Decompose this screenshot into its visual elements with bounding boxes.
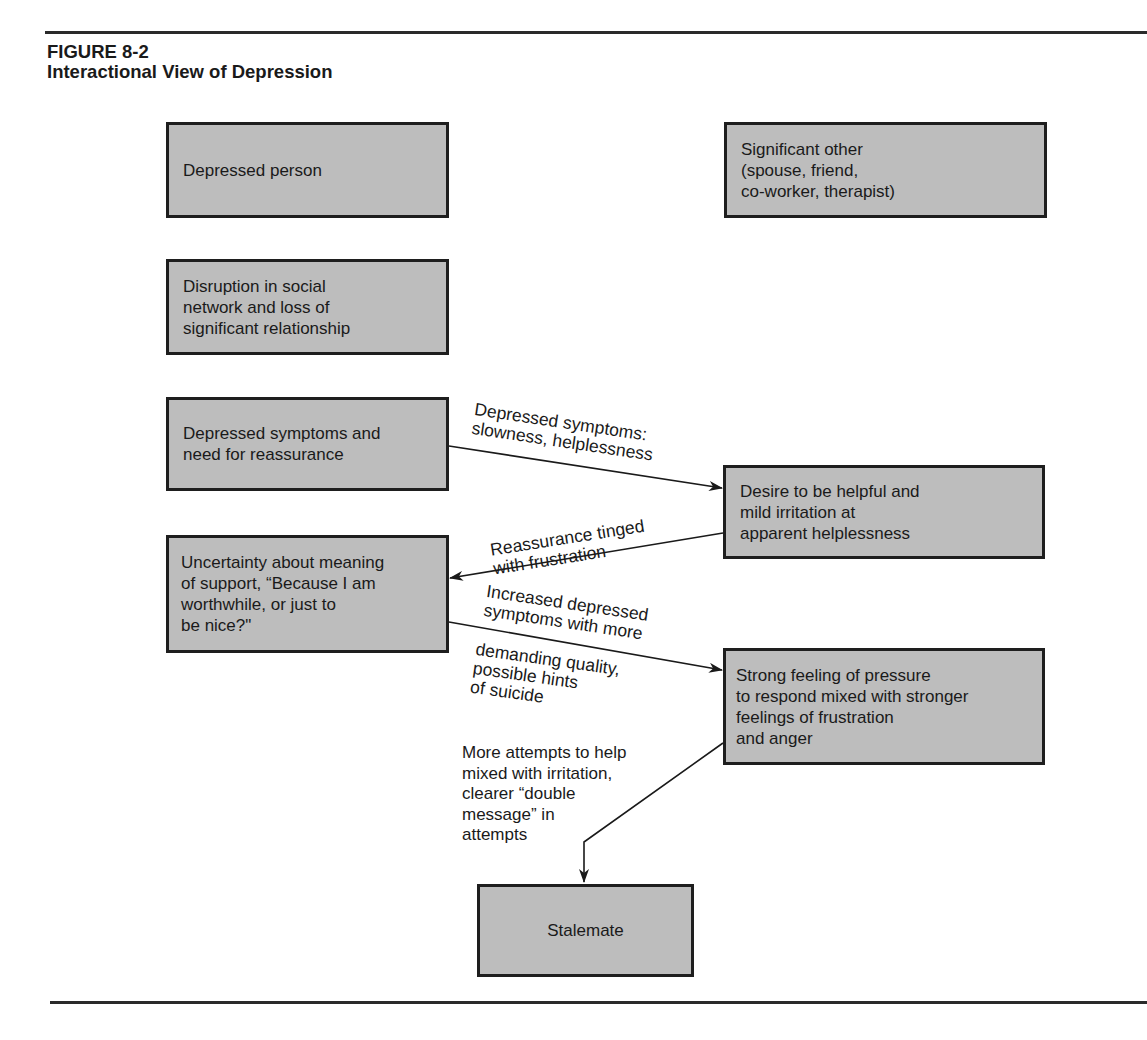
node-depressed-person: Depressed person	[166, 122, 449, 218]
node-stalemate: Stalemate	[477, 884, 694, 977]
node-disruption: Disruption in social network and loss of…	[166, 259, 449, 355]
node-strong-feeling: Strong feeling of pressure to respond mi…	[723, 648, 1045, 765]
bottom-rule	[50, 1001, 1147, 1004]
edge-label-more-attempts: More attempts to help mixed with irritat…	[462, 743, 626, 846]
node-desire-to-help: Desire to be helpful and mild irritation…	[723, 465, 1045, 559]
node-uncertainty: Uncertainty about meaning of support, “B…	[166, 535, 449, 653]
node-significant-other: Significant other (spouse, friend, co-wo…	[724, 122, 1047, 218]
node-depressed-symptoms: Depressed symptoms and need for reassura…	[166, 397, 449, 491]
